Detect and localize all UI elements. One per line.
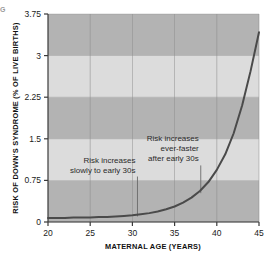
x-tick-label-25: 25 bbox=[85, 228, 95, 238]
y-tick-label-1.5: 1.5 bbox=[29, 134, 41, 144]
x-tick-label-30: 30 bbox=[128, 228, 138, 238]
x-tick-label-45: 45 bbox=[254, 228, 264, 238]
annotation-slow-rise-line-0: Risk increases bbox=[83, 156, 135, 165]
y-axis-tick-labels: 00.751.52.2533.75 bbox=[24, 9, 41, 227]
y-tick-label-3: 3 bbox=[36, 51, 41, 61]
value-band-3 bbox=[48, 56, 259, 98]
value-band-2 bbox=[48, 97, 259, 139]
x-tick-label-40: 40 bbox=[212, 228, 222, 238]
x-tick-label-20: 20 bbox=[43, 228, 53, 238]
downs-syndrome-risk-figure: G 00.751.52.2533.75 202530354045 Risk in… bbox=[0, 0, 271, 260]
annotation-fast-rise-line-2: after early 30s bbox=[148, 154, 199, 163]
y-tick-label-0: 0 bbox=[36, 217, 41, 227]
x-axis-title: MATERNAL AGE (YEARS) bbox=[105, 242, 201, 251]
x-axis-ticks bbox=[48, 222, 259, 226]
annotation-fast-rise-line-1: ever-faster bbox=[161, 144, 200, 153]
x-tick-label-35: 35 bbox=[170, 228, 180, 238]
annotation-fast-rise-line-0: Risk increases bbox=[147, 134, 199, 143]
value-band-0 bbox=[48, 180, 259, 222]
x-axis-tick-labels: 202530354045 bbox=[43, 228, 264, 238]
risk-vs-maternal-age-chart: 00.751.52.2533.75 202530354045 Risk incr… bbox=[0, 0, 271, 260]
annotation-slow-rise-line-1: slowly to early 30s bbox=[70, 166, 135, 175]
y-axis-title: RISK OF DOWN'S SYNDROME (% OF LIVE BIRTH… bbox=[11, 22, 20, 214]
y-tick-label-2.25: 2.25 bbox=[24, 92, 41, 102]
horizontal-value-bands bbox=[48, 14, 259, 222]
y-tick-label-0.75: 0.75 bbox=[24, 175, 41, 185]
y-tick-label-3.75: 3.75 bbox=[24, 9, 41, 19]
value-band-4 bbox=[48, 14, 259, 56]
